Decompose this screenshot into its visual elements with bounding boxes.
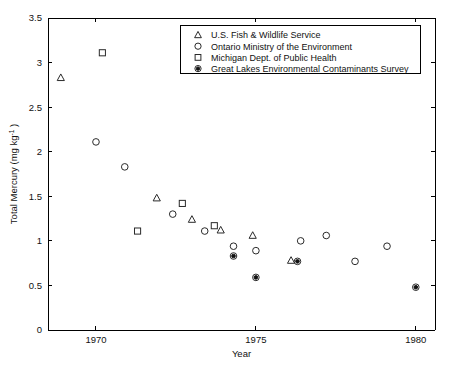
legend-marker-circle-filled-dot-dot xyxy=(196,67,199,70)
y-tick-label: 1 xyxy=(37,235,42,246)
legend-item: Great Lakes Environmental Contaminants S… xyxy=(195,64,409,74)
data-point-circle-filled-dot-dot xyxy=(414,285,418,289)
y-tick-label: 3.5 xyxy=(29,12,42,23)
y-tick-label: 0.5 xyxy=(29,280,42,291)
y-tick-label: 2 xyxy=(37,146,42,157)
legend-item: Michigan Dept. of Public Health xyxy=(195,53,336,63)
legend-item: Ontario Ministry of the Environment xyxy=(195,42,353,52)
legend-item-label: Michigan Dept. of Public Health xyxy=(211,53,337,63)
y-tick-label: 3 xyxy=(37,57,42,68)
legend-item-label: Ontario Ministry of the Environment xyxy=(211,42,353,52)
x-tick-label: 1980 xyxy=(405,334,426,345)
chart-figure: 00.511.522.533.5 197019751980 Year Total… xyxy=(0,0,450,368)
data-point-circle-filled-dot-dot xyxy=(254,276,258,280)
x-tick-label: 1975 xyxy=(245,334,266,345)
y-tick-label: 1.5 xyxy=(29,191,42,202)
mercury-scatter-plot: 00.511.522.533.5 197019751980 Year Total… xyxy=(0,0,450,368)
chart-legend: U.S. Fish & Wildlife ServiceOntario Mini… xyxy=(180,25,420,74)
y-tick-label: 2.5 xyxy=(29,102,42,113)
y-tick-label: 0 xyxy=(37,324,42,335)
legend-item-label: Great Lakes Environmental Contaminants S… xyxy=(211,64,409,74)
y-axis-title: Total Mercury (mg kg-1 ) xyxy=(8,124,19,224)
x-tick-label: 1970 xyxy=(85,334,106,345)
svg-text:Total Mercury (mg kg-1 ): Total Mercury (mg kg-1 ) xyxy=(8,124,19,224)
data-point-circle-filled-dot-dot xyxy=(232,254,236,258)
data-point-circle-filled-dot-dot xyxy=(296,260,300,264)
legend-item: U.S. Fish & Wildlife Service xyxy=(195,30,321,40)
legend-item-label: U.S. Fish & Wildlife Service xyxy=(211,30,321,40)
x-axis-title: Year xyxy=(232,348,251,359)
